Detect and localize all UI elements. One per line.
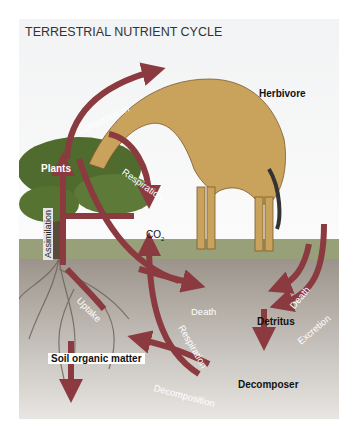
assimilation-label: Assimilation — [43, 208, 53, 260]
plants-label: Plants — [41, 163, 71, 174]
decomposer-label: Decomposer — [238, 379, 299, 390]
co2-label: CO2 — [146, 229, 164, 242]
nutrient-cycle-figure: TERRESTRIAL NUTRIENT CYCLE Herbivore Pla… — [0, 0, 357, 445]
soil-organic-matter-label: Soil organic matter — [48, 353, 145, 364]
grass — [19, 239, 339, 261]
herbivore-label: Herbivore — [259, 88, 306, 99]
diagram-title: TERRESTRIAL NUTRIENT CYCLE — [25, 25, 222, 39]
diagram-panel: TERRESTRIAL NUTRIENT CYCLE Herbivore Pla… — [19, 19, 339, 419]
detritus-label: Detritus — [257, 316, 295, 327]
death-plants-label: Death — [191, 306, 216, 317]
